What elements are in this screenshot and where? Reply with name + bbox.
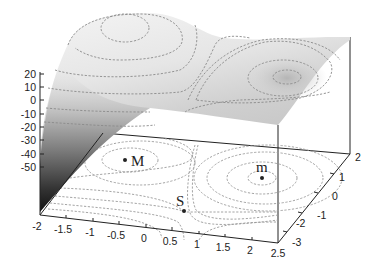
x-tick-label: -1.5 [54, 223, 72, 235]
saddle-point-marker [182, 209, 186, 213]
critical-points: M S m [123, 153, 268, 213]
x-tick-label: 0.5 [163, 235, 178, 247]
x-tick-label: 2 [247, 244, 253, 256]
y-tick-label: -1 [317, 209, 326, 221]
maximum-point-label: M [131, 153, 144, 169]
surface [40, 13, 350, 212]
z-tick-label: 20 [24, 68, 36, 80]
x-tick-label: -0.5 [107, 229, 125, 241]
x-tick-label: 1.5 [216, 241, 231, 253]
z-tick-label: 10 [24, 81, 36, 93]
saddle-point-label: S [176, 193, 184, 209]
x-tick-label: -2 [32, 220, 41, 232]
maximum-point-marker [123, 158, 127, 162]
y-tick-label: -3 [292, 236, 301, 248]
surface-plot: 20 10 0 -10 -20 -30 -40 -50 -2 -1.5 -1 -… [0, 0, 375, 270]
x-tick-label: 0 [141, 232, 147, 244]
z-tick-label: 0 [30, 94, 36, 106]
x-tick-label: 1 [194, 238, 200, 250]
y-axis [278, 154, 350, 243]
z-tick-label: -30 [21, 134, 36, 146]
minimum-point-marker [260, 176, 264, 180]
y-tick-label: 2 [355, 151, 361, 163]
x-tick-label: -1 [85, 226, 94, 238]
y-tick-label: 1 [339, 171, 345, 183]
y-ticks: 2 1 0 -1 -2 -3 [283, 151, 361, 248]
y-tick-label: -2 [296, 217, 305, 229]
z-tick-label: -20 [21, 121, 36, 133]
z-tick-label: -40 [21, 148, 36, 160]
x-tick-label: 2.5 [271, 247, 286, 259]
z-tick-label: -10 [21, 108, 36, 120]
x-ticks: -2 -1.5 -1 -0.5 0 0.5 1 1.5 2 2.5 [32, 215, 285, 259]
z-tick-label: -50 [21, 161, 36, 173]
minimum-point-label: m [256, 159, 268, 175]
y-tick-label: 0 [332, 190, 338, 202]
